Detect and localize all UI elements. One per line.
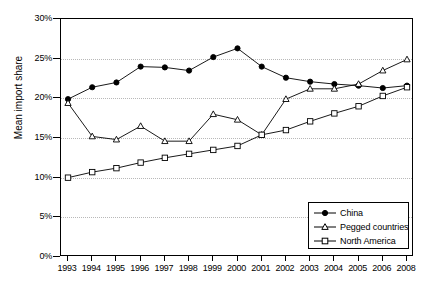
x-tick-label: 1994 (82, 263, 101, 273)
data-point (211, 147, 216, 152)
x-tick-label: 2000 (227, 263, 246, 273)
data-point (259, 64, 264, 69)
x-tick-mark (91, 256, 92, 261)
data-point (138, 123, 144, 129)
y-tick-mark (53, 58, 60, 59)
x-tick-mark (261, 256, 262, 261)
x-tick-mark (164, 256, 165, 261)
legend-label: North America (337, 236, 396, 246)
y-tick-label: 15% (35, 132, 52, 142)
x-tick-mark (333, 256, 334, 261)
series-north-america (65, 85, 409, 181)
legend-label: Pegged countries (337, 222, 408, 232)
x-tick-mark (406, 256, 407, 261)
data-point (404, 85, 409, 90)
x-tick-mark (115, 256, 116, 261)
x-tick-label: 2004 (324, 263, 343, 273)
data-point (186, 151, 191, 156)
data-point (162, 65, 167, 70)
data-point (210, 111, 216, 117)
data-point (138, 160, 143, 165)
y-tick-label: 5% (39, 211, 52, 221)
data-point (380, 93, 385, 98)
plot-area: China Pegged countries North America (60, 18, 413, 256)
series-china (65, 46, 409, 102)
legend: China Pegged countries North America (308, 202, 409, 249)
x-tick-label: 1996 (130, 263, 149, 273)
legend-item-china: China (313, 206, 404, 220)
chart-root: Mean import share 0%5%10%15%20%25%30% Ch… (0, 0, 427, 290)
y-tick-label: 10% (35, 172, 52, 182)
y-tick-mark (53, 137, 60, 138)
x-tick-mark (67, 256, 68, 261)
data-point (211, 54, 216, 59)
data-point (65, 175, 70, 180)
series-pegged-countries (65, 56, 410, 143)
data-point (186, 68, 191, 73)
data-point (235, 46, 240, 51)
x-tick-mark (358, 256, 359, 261)
x-tick-label: 2003 (300, 263, 319, 273)
x-tick-label: 2008 (397, 263, 416, 273)
x-tick-mark (382, 256, 383, 261)
data-point (332, 111, 337, 116)
data-point (404, 56, 410, 62)
data-point (283, 75, 288, 80)
data-point (138, 64, 143, 69)
legend-label: China (337, 208, 363, 218)
y-tick-label: 30% (35, 13, 52, 23)
x-tick-label: 2005 (348, 263, 367, 273)
x-tick-mark (188, 256, 189, 261)
y-tick-mark (53, 18, 60, 19)
filled-circle-icon (313, 207, 337, 219)
x-tick-label: 2006 (372, 263, 391, 273)
x-tick-mark (309, 256, 310, 261)
data-point (259, 132, 264, 137)
data-point (356, 104, 361, 109)
y-tick-label: 25% (35, 53, 52, 63)
x-tick-label: 1997 (154, 263, 173, 273)
x-axis: 1993199419951996199719981999200020012002… (0, 256, 427, 290)
data-point (307, 119, 312, 124)
legend-item-north-america: North America (313, 234, 404, 248)
data-point (114, 165, 119, 170)
x-tick-label: 1999 (203, 263, 222, 273)
y-tick-mark (53, 177, 60, 178)
data-point (162, 138, 168, 144)
x-tick-label: 1995 (106, 263, 125, 273)
x-tick-mark (212, 256, 213, 261)
x-tick-mark (285, 256, 286, 261)
y-tick-mark (53, 97, 60, 98)
data-point (308, 79, 313, 84)
data-point (380, 67, 386, 73)
y-tick-label: 20% (35, 92, 52, 102)
data-point (90, 85, 95, 90)
data-point (162, 155, 167, 160)
x-tick-label: 2002 (276, 263, 295, 273)
x-tick-mark (237, 256, 238, 261)
open-square-icon (313, 235, 337, 247)
x-tick-label: 1993 (58, 263, 77, 273)
open-triangle-icon (313, 221, 337, 233)
y-tick-mark (53, 216, 60, 217)
data-point (235, 143, 240, 148)
data-point (380, 85, 385, 90)
x-tick-label: 2001 (251, 263, 270, 273)
y-axis-title: Mean import share (13, 18, 24, 178)
data-point (283, 127, 288, 132)
data-point (307, 86, 313, 92)
x-tick-mark (140, 256, 141, 261)
legend-item-pegged-countries: Pegged countries (313, 220, 404, 234)
data-point (90, 169, 95, 174)
data-point (114, 80, 119, 85)
x-tick-label: 1998 (179, 263, 198, 273)
y-axis: Mean import share 0%5%10%15%20%25%30% (0, 0, 60, 290)
